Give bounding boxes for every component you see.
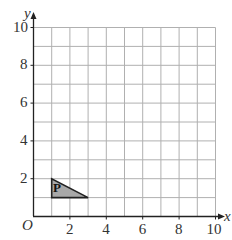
origin-label: O [22, 218, 33, 233]
x-tick-label: 10 [207, 222, 222, 237]
y-tick-label: 10 [13, 20, 28, 35]
y-tick-label: 8 [20, 57, 28, 72]
y-tick-label: 4 [20, 133, 28, 148]
x-axis-label: x [224, 209, 231, 224]
coordinate-grid [0, 0, 232, 240]
x-tick-label: 2 [66, 222, 74, 237]
x-tick-label: 4 [102, 222, 110, 237]
x-tick-label: 8 [175, 222, 183, 237]
y-tick-label: 2 [20, 171, 28, 186]
y-axis-arrow-icon [31, 12, 37, 19]
y-tick-label: 6 [20, 95, 28, 110]
x-tick-label: 6 [139, 222, 147, 237]
shape-p-label: P [53, 181, 61, 194]
